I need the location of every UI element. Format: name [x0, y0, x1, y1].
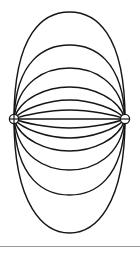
dipole-field-diagram: [0, 0, 140, 254]
footer-divider: [0, 246, 140, 247]
field-lines-group: [14, 12, 125, 233]
field-line-down-1: [14, 119, 125, 128]
field-line-up-4: [14, 68, 125, 119]
positive-charge-marker: [9, 114, 18, 123]
field-line-up-6: [14, 12, 125, 119]
dipole-figure: [0, 0, 140, 254]
field-line-down-4: [14, 119, 125, 170]
negative-charge-marker: [120, 114, 129, 123]
field-line-up-1: [14, 110, 125, 119]
